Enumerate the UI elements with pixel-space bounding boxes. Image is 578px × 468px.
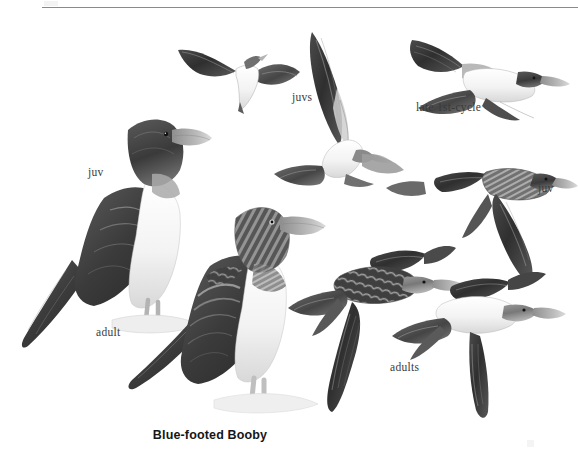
label-juv-right: juv (538, 183, 554, 195)
header-smudge (44, 1, 58, 6)
corner-smudge (527, 440, 534, 447)
label-adults: adults (390, 362, 419, 374)
figure-flying-adult-underside (392, 272, 566, 418)
header-rule (42, 7, 578, 8)
figure-flying-juv-distant (178, 50, 300, 114)
bird-illustration-plate (0, 14, 578, 422)
label-juv-left: juv (88, 167, 104, 179)
label-late-1st-cycle: late 1st-cycle (416, 102, 481, 114)
label-juvs: juvs (292, 92, 312, 104)
figure-flying-juv-banking (274, 32, 404, 187)
figure-standing-juv (22, 120, 212, 348)
label-adult: adult (96, 327, 121, 339)
species-name: Blue-footed Booby (0, 428, 420, 442)
field-guide-plate-page: juv juvs late 1st-cycle juv adult adults… (0, 0, 578, 468)
